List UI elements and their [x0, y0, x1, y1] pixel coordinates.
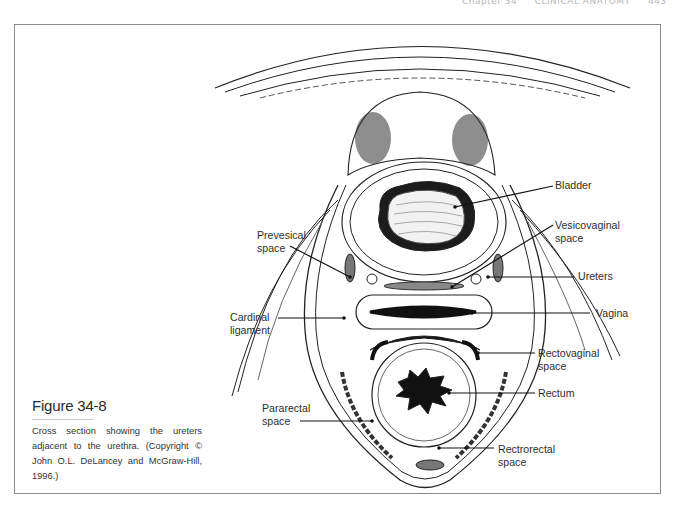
caption-divider: [32, 419, 94, 420]
label-cardinal-line1: Cardinal: [230, 311, 270, 324]
label-retrorectal-space: Rectrorectal space: [498, 443, 555, 469]
label-rectum: Rectum: [538, 387, 575, 400]
label-retrorectal-line1: Rectrorectal: [498, 443, 555, 456]
label-pararectal-line2: space: [262, 415, 310, 428]
label-rectovaginal-space: Rectovaginal space: [538, 347, 599, 373]
label-prevesical-line1: Prevesical: [257, 229, 306, 242]
label-cardinal-line2: ligament: [230, 324, 270, 337]
label-prevesical-space: Prevesical space: [257, 229, 306, 255]
label-vagina-text: Vagina: [596, 307, 628, 319]
label-vesicovaginal-line2: space: [555, 232, 620, 245]
label-vesicovaginal-line1: Vesicovaginal: [555, 219, 620, 232]
label-retrorectal-line2: space: [498, 456, 555, 469]
label-ureters-text: Ureters: [578, 270, 613, 282]
label-rectum-text: Rectum: [538, 387, 575, 399]
label-pararectal-space: Pararectal space: [262, 402, 310, 428]
figure-caption: Cross section showing the ureters adjace…: [32, 424, 202, 484]
label-rectovaginal-line2: space: [538, 360, 599, 373]
label-bladder: Bladder: [555, 179, 592, 192]
label-prevesical-line2: space: [257, 242, 306, 255]
label-vesicovaginal-space: Vesicovaginal space: [555, 219, 620, 245]
figure-number: Figure 34-8: [32, 397, 107, 414]
label-pararectal-line1: Pararectal: [262, 402, 310, 415]
label-rectovaginal-line1: Rectovaginal: [538, 347, 599, 360]
label-cardinal-ligament: Cardinal ligament: [230, 311, 270, 337]
label-bladder-text: Bladder: [555, 179, 592, 191]
label-vagina: Vagina: [596, 307, 628, 320]
label-ureters: Ureters: [578, 270, 613, 283]
